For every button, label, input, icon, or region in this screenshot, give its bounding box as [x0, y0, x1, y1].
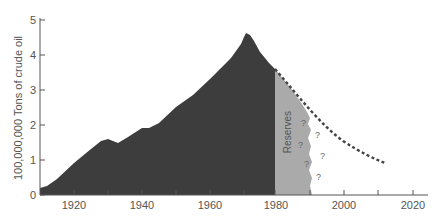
y-tick-labels: 0 1 2 3 4 5 — [30, 14, 36, 201]
reserves-label: Reserves — [282, 111, 293, 153]
y-tick-5: 5 — [30, 14, 36, 26]
question-mark: ? — [320, 151, 325, 161]
production-area — [40, 33, 275, 195]
x-tick-labels: 1920 1940 1960 1980 2000 2020 — [62, 199, 425, 211]
question-mark: ? — [304, 159, 309, 169]
x-tick-1960: 1960 — [198, 199, 222, 211]
x-tick-2020: 2020 — [401, 199, 425, 211]
x-tick-2000: 2000 — [332, 199, 356, 211]
y-tick-4: 4 — [30, 49, 36, 61]
y-tick-1: 1 — [30, 154, 36, 166]
oil-production-chart: 0 1 2 3 4 5 1920 1940 1960 1980 2000 202… — [0, 0, 442, 218]
question-mark: ? — [301, 118, 306, 128]
y-ticks — [40, 20, 45, 195]
reserves-area — [275, 69, 312, 195]
y-axis-title: 100,000,000 Tons of crude oil — [12, 36, 24, 180]
question-mark: ? — [298, 140, 303, 150]
x-tick-1920: 1920 — [62, 199, 86, 211]
question-mark: ? — [316, 172, 321, 182]
question-mark: ? — [315, 130, 320, 140]
chart-svg: 0 1 2 3 4 5 1920 1940 1960 1980 2000 202… — [0, 0, 442, 218]
x-tick-1980: 1980 — [264, 199, 288, 211]
x-tick-1940: 1940 — [130, 199, 154, 211]
y-tick-3: 3 — [30, 84, 36, 96]
y-tick-0: 0 — [30, 189, 36, 201]
y-tick-2: 2 — [30, 119, 36, 131]
